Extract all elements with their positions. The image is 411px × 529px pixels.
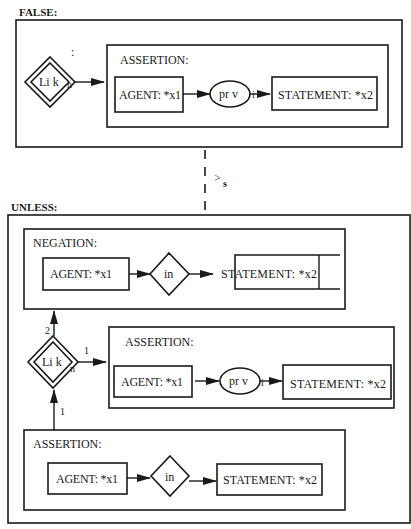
relation-mark: i [252, 89, 255, 100]
relation-subscript: s [223, 178, 227, 189]
link-suffix: n [70, 363, 75, 374]
link-suffix: n [67, 79, 72, 90]
conceptual-graph-diagram: FALSE: Li k n : ASSERTION: AGENT: *x1 pr… [0, 0, 411, 529]
prv-label: pr v [229, 374, 248, 388]
arc-right-label: 1 [84, 345, 89, 356]
statement-label: STATEMENT: *x2 [223, 473, 317, 487]
in-label: in [164, 267, 173, 281]
relation-mark: i [261, 377, 264, 388]
statement-label: STATEMENT: *x2 [221, 267, 317, 281]
unless-heading: UNLESS: [11, 201, 57, 213]
middle-assertion-context: ASSERTION: AGENT: *x1 pr v i STATEMENT: … [109, 327, 394, 408]
context-relation: > s [205, 150, 227, 215]
unless-context: UNLESS: NEGATION: AGENT: *x1 in STATEMEN… [8, 201, 410, 523]
link-label: Li k [39, 75, 59, 89]
assertion-heading: ASSERTION: [125, 335, 194, 349]
unless-link-node: Li k n [28, 336, 78, 388]
agent-label: AGENT: *x1 [50, 267, 112, 281]
link-label: Li k [42, 355, 62, 369]
agent-label: AGENT: *x1 [119, 88, 181, 102]
assertion-heading: ASSERTION: [120, 53, 189, 67]
false-assertion-context: ASSERTION: AGENT: *x1 pr v i STATEMENT: … [107, 45, 388, 127]
relation-symbol: > [214, 171, 221, 185]
agent-label: AGENT: *x1 [56, 472, 118, 486]
false-context: FALSE: Li k n : ASSERTION: AGENT: *x1 pr… [16, 6, 402, 147]
false-heading: FALSE: [19, 6, 57, 18]
link-marker: : [71, 45, 74, 59]
statement-label: STATEMENT: *x2 [278, 88, 373, 102]
prv-label: pr v [219, 87, 238, 101]
in-label: in [165, 470, 174, 484]
bottom-assertion-context: ASSERTION: AGENT: *x1 in STATEMENT: *x2 [24, 430, 345, 510]
arc-up-label: 2 [45, 325, 50, 336]
agent-label: AGENT: *x1 [121, 375, 183, 389]
arc-in-label: 1 [60, 406, 65, 417]
negation-heading: NEGATION: [33, 236, 97, 250]
link-node: Li k n : [25, 45, 75, 107]
statement-label: STATEMENT: *x2 [290, 377, 386, 391]
assertion-heading: ASSERTION: [33, 437, 102, 451]
negation-context: NEGATION: AGENT: *x1 in STATEMENT: *x2 [24, 229, 345, 309]
